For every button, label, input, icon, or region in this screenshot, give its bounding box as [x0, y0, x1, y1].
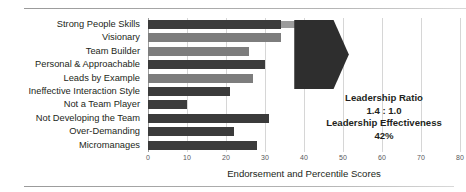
- category-label: Leads by Example: [64, 72, 141, 85]
- category-label: Micromanages: [79, 139, 140, 152]
- bar: [148, 33, 281, 42]
- bar: [148, 127, 234, 136]
- category-axis-labels: Strong People SkillsVisionaryTeam Builde…: [0, 18, 144, 152]
- category-label: Over-Demanding: [69, 125, 140, 138]
- divider-bottom: [24, 186, 454, 187]
- bar: [148, 141, 257, 150]
- bar: [148, 74, 253, 83]
- leadership-effectiveness-label: Leadership Effectiveness: [306, 117, 462, 130]
- leadership-ratio-value: 1.4 : 1.0: [306, 105, 462, 118]
- leadership-summary-block: Leadership Ratio 1.4 : 1.0 Leadership Ef…: [306, 92, 462, 142]
- category-label: Strong People Skills: [57, 18, 140, 31]
- x-axis-ticks: 01020304050607080: [148, 154, 460, 166]
- x-tick-label: 30: [261, 154, 269, 161]
- category-label: Personal & Approachable: [35, 58, 140, 71]
- leadership-ratio-label: Leadership Ratio: [306, 92, 462, 105]
- category-label: Not Developing the Team: [36, 112, 140, 125]
- x-tick-label: 10: [183, 154, 191, 161]
- bar: [148, 60, 265, 69]
- x-tick-label: 50: [339, 154, 347, 161]
- x-tick-label: 80: [456, 154, 464, 161]
- category-label: Not a Team Player: [64, 98, 140, 111]
- x-axis-title: Endorsement and Percentile Scores: [148, 168, 460, 179]
- x-tick-label: 60: [378, 154, 386, 161]
- bar: [148, 87, 230, 96]
- leadership-effectiveness-value: 42%: [306, 130, 462, 143]
- bar: [148, 100, 187, 109]
- category-label: Ineffective Interaction Style: [29, 85, 140, 98]
- x-tick-label: 40: [300, 154, 308, 161]
- category-label: Visionary: [102, 31, 140, 44]
- x-tick-label: 0: [146, 154, 150, 161]
- bar: [148, 114, 269, 123]
- divider-top: [24, 8, 466, 9]
- bar: [148, 20, 281, 29]
- x-tick-label: 20: [222, 154, 230, 161]
- x-tick-label: 70: [417, 154, 425, 161]
- category-label: Team Builder: [86, 45, 140, 58]
- bar: [148, 47, 249, 56]
